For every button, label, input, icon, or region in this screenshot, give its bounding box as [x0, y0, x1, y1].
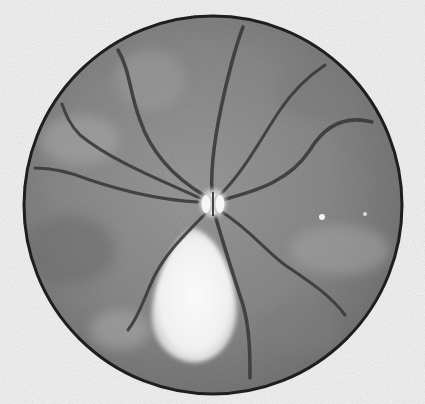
optic-disc: [200, 189, 226, 217]
bright-spot: [319, 214, 325, 220]
bright-spot: [363, 212, 367, 216]
fundus-svg: [0, 0, 425, 404]
fundus-image: Grayscale retinal fundus photograph: [0, 0, 425, 404]
